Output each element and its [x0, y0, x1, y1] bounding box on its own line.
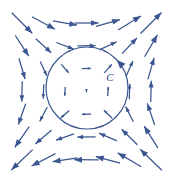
field-arrow-head	[82, 113, 85, 115]
field-arrow	[15, 36, 28, 57]
field-arrow	[64, 87, 66, 96]
field-arrow	[11, 150, 32, 170]
field-arrow	[53, 21, 77, 27]
field-arrow	[32, 154, 56, 166]
field-arrow	[148, 58, 155, 80]
curve-direction-arrowhead	[117, 60, 125, 69]
field-arrow-head	[42, 94, 45, 99]
field-arrow-head	[151, 35, 158, 43]
field-arrow	[35, 130, 51, 144]
field-arrow	[118, 153, 141, 167]
field-arrow-head	[85, 89, 87, 92]
field-arrow	[99, 133, 117, 141]
curve-label-c: C	[106, 71, 114, 83]
field-arrow	[85, 89, 87, 92]
field-arrow-head	[56, 136, 62, 140]
field-arrow	[122, 38, 137, 54]
field-arrow-head	[147, 103, 152, 111]
field-arrow	[36, 39, 51, 53]
field-arrow-head	[18, 117, 23, 124]
field-arrow	[77, 135, 95, 139]
field-arrow	[18, 104, 25, 125]
field-arrow	[40, 107, 48, 121]
field-arrow-head	[88, 67, 91, 69]
field-arrow-head	[118, 153, 126, 160]
field-arrow	[53, 158, 78, 164]
field-arrow	[82, 67, 91, 69]
field-arrow-head	[149, 81, 154, 88]
field-arrow-head	[77, 135, 83, 139]
field-arrow	[118, 16, 141, 30]
field-arrow-head	[67, 45, 73, 49]
field-arrow-head	[129, 61, 133, 67]
field-arrow	[140, 149, 162, 170]
field-arrow-head	[150, 58, 155, 65]
field-arrow	[122, 129, 138, 144]
field-arrow	[107, 87, 109, 96]
field-arrow	[42, 84, 45, 98]
field-arrow	[144, 126, 158, 148]
field-arrow	[61, 110, 70, 118]
vector-field-canvas: C	[0, 0, 172, 182]
field-arrow	[96, 156, 120, 163]
field-arrow	[99, 42, 116, 50]
field-arrow-head	[19, 95, 24, 101]
vector-field-figure: C	[0, 0, 172, 182]
field-arrow	[12, 13, 33, 34]
field-arrow	[82, 113, 91, 115]
field-arrow-head	[110, 42, 116, 47]
field-arrow	[19, 81, 24, 102]
field-arrow-head	[53, 158, 61, 164]
field-arrow	[40, 61, 46, 75]
field-arrow	[56, 134, 74, 140]
field-arrow-head	[43, 71, 47, 76]
field-arrow	[74, 157, 99, 163]
field-arrow-head	[64, 93, 66, 96]
field-arrow-head	[126, 107, 130, 113]
field-arrow-head	[99, 133, 105, 138]
field-arrow	[126, 107, 134, 122]
field-arrow-head	[144, 126, 151, 134]
field-arrow-head	[47, 23, 55, 29]
field-arrow-head	[91, 20, 99, 26]
field-arrow	[96, 19, 120, 26]
field-arrow	[104, 110, 112, 118]
field-arrow	[15, 127, 29, 148]
field-arrow-head	[96, 156, 104, 162]
vector-field-arrow-layer	[11, 12, 162, 170]
closed-curve-c	[46, 47, 128, 129]
field-arrow-head	[107, 87, 109, 90]
field-arrow	[75, 20, 99, 26]
field-arrow-head	[32, 160, 40, 166]
field-arrow	[145, 35, 158, 57]
field-arrow-head	[22, 48, 29, 56]
field-arrow	[140, 12, 161, 33]
field-arrow-head	[15, 139, 22, 147]
field-arrow	[19, 58, 26, 79]
field-arrow-head	[21, 72, 26, 79]
field-arrow	[56, 42, 73, 49]
field-arrow-head	[69, 21, 77, 27]
field-arrow-head	[133, 16, 141, 23]
field-arrow	[147, 103, 155, 125]
closed-curve-layer	[46, 47, 128, 129]
field-arrow	[32, 17, 55, 29]
field-arrow-head	[40, 116, 44, 121]
field-arrow	[126, 61, 133, 76]
field-arrow	[61, 64, 69, 72]
field-arrow	[149, 81, 154, 102]
field-arrow-head	[112, 19, 120, 25]
